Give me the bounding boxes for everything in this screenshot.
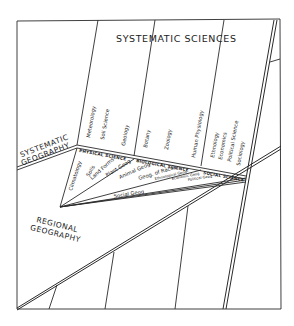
label-soil-science: Soil Science — [99, 108, 110, 140]
divider-line — [270, 59, 280, 62]
fan-line — [60, 182, 246, 207]
divider-line — [105, 252, 114, 309]
label-geology: Geology — [120, 124, 131, 146]
label-meteorology: Meteorology — [85, 105, 97, 138]
label-sociology: Sociology — [235, 141, 246, 167]
label-social-geog: Social Geog — [113, 188, 144, 200]
double-line — [223, 20, 274, 309]
geography-diagram: SYSTEMATIC SCIENCES SYSTEMATIC GEOGRAPHY… — [0, 0, 294, 326]
title-systematic-sciences: SYSTEMATIC SCIENCES — [116, 33, 237, 44]
label-botany: Botany — [142, 129, 152, 148]
divider-line — [175, 206, 188, 309]
label-climatology: Climatology — [67, 160, 83, 192]
label-zoology: Zoology — [163, 129, 174, 151]
